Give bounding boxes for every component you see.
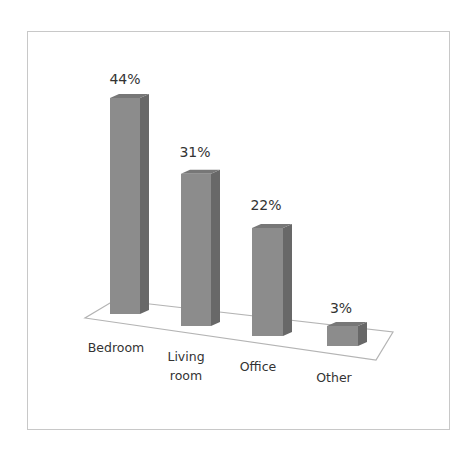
bar-bedroom: [110, 94, 149, 314]
bar-side-face: [140, 94, 149, 314]
category-label-other: Other: [316, 368, 352, 387]
value-label-office: 22%: [250, 198, 281, 212]
value-label-other: 3%: [330, 301, 352, 315]
bar-side-face: [358, 322, 367, 346]
category-label-bedroom-line1: Bedroom: [88, 338, 145, 357]
category-label-living-room-line1: Living: [167, 347, 204, 366]
category-label-living-room: Living room: [167, 347, 204, 385]
bar-side-face: [211, 170, 220, 326]
bar-office: [252, 224, 292, 336]
bar-front-face: [110, 98, 140, 314]
bar-other: [327, 322, 367, 346]
value-label-bedroom: 44%: [109, 72, 140, 86]
bar-front-face: [181, 174, 211, 326]
bar-front-face: [327, 326, 358, 346]
category-label-office: Office: [240, 357, 277, 376]
category-label-bedroom: Bedroom: [88, 338, 145, 357]
bar-side-face: [283, 224, 292, 336]
category-label-living-room-line2: room: [167, 366, 204, 385]
chart-plot-area: [0, 0, 474, 452]
value-label-living-room: 31%: [179, 145, 210, 159]
category-label-office-line1: Office: [240, 357, 277, 376]
bar-front-face: [252, 228, 283, 336]
bar-living-room: [181, 170, 220, 326]
category-label-other-line1: Other: [316, 368, 352, 387]
